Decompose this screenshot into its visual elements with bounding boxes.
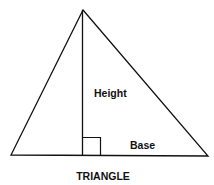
triangle-shape <box>11 10 208 156</box>
triangle-diagram: Height Base TRIANGLE <box>0 0 214 185</box>
height-label: Height <box>94 87 127 99</box>
right-angle-marker <box>83 138 101 156</box>
diagram-title: TRIANGLE <box>76 170 130 182</box>
base-label: Base <box>130 139 155 151</box>
